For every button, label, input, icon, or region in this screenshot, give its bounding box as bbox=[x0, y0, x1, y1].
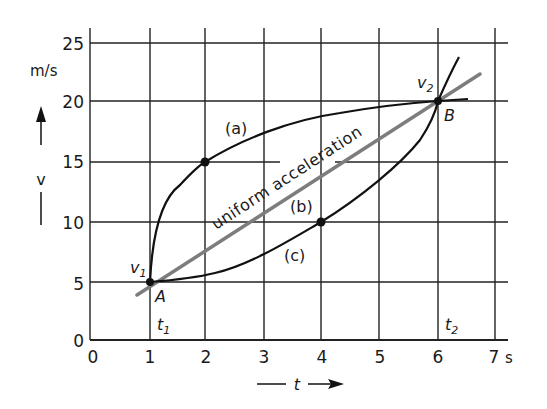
x-tick-1: 1 bbox=[145, 347, 156, 367]
y-tick-5: 5 bbox=[73, 274, 84, 294]
uniform-acceleration-label: uniform acceleration bbox=[208, 122, 366, 234]
v-axis-arrow-icon bbox=[36, 106, 46, 225]
v1-label: v1 bbox=[130, 258, 146, 280]
point-A bbox=[146, 278, 154, 286]
y-tick-25: 25 bbox=[62, 34, 84, 54]
t1-label: t1 bbox=[157, 315, 170, 337]
v-axis-label: v bbox=[36, 170, 45, 189]
y-tick-20: 20 bbox=[62, 92, 84, 112]
velocity-time-chart: 0 5 10 15 20 25 0 1 2 3 4 5 6 7 s m/s v … bbox=[0, 0, 547, 409]
point-a-mid bbox=[201, 158, 210, 167]
curve-b-label: (b) bbox=[290, 197, 313, 216]
y-unit-label: m/s bbox=[30, 62, 58, 80]
x-unit-label: s bbox=[505, 349, 513, 367]
point-A-label: A bbox=[154, 287, 166, 306]
t-axis-arrow-icon bbox=[257, 379, 344, 389]
y-tick-10: 10 bbox=[62, 213, 84, 233]
x-tick-7: 7 bbox=[489, 347, 500, 367]
x-tick-2: 2 bbox=[201, 347, 212, 367]
curve-a-label: (a) bbox=[225, 119, 247, 138]
point-c-mid bbox=[317, 218, 326, 227]
y-tick-0: 0 bbox=[73, 331, 84, 351]
point-B-label: B bbox=[444, 106, 455, 125]
grid bbox=[90, 28, 508, 340]
v2-label: v2 bbox=[417, 73, 433, 95]
point-B bbox=[434, 97, 442, 105]
t-axis-label: t bbox=[294, 375, 301, 394]
curve-c-label: (c) bbox=[284, 246, 305, 265]
y-tick-15: 15 bbox=[62, 152, 84, 172]
x-tick-0: 0 bbox=[88, 347, 99, 367]
x-tick-6: 6 bbox=[433, 347, 444, 367]
x-tick-4: 4 bbox=[317, 347, 328, 367]
x-tick-3: 3 bbox=[259, 347, 270, 367]
uniform-acceleration-line bbox=[137, 74, 480, 295]
t2-label: t2 bbox=[445, 315, 458, 337]
x-tick-5: 5 bbox=[375, 347, 386, 367]
